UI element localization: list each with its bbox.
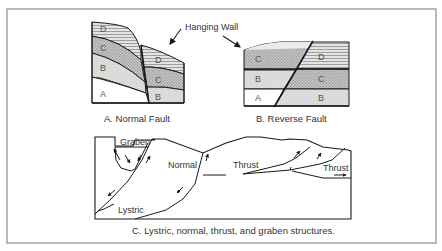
- label-layer-c-right-b: C: [318, 74, 325, 84]
- label-layer-d-right-b: D: [318, 52, 325, 62]
- label-layer-b-right-b: B: [318, 93, 324, 103]
- fault-diagram: D C B A D C B A. Normal Fault Hanging Wa…: [0, 0, 442, 251]
- label-layer-b-b: B: [255, 74, 261, 84]
- label-layer-b: B: [100, 63, 106, 73]
- label-lystric: Lystric: [118, 205, 144, 215]
- label-normal: Normal: [168, 160, 197, 170]
- hanging-wall-label: Hanging Wall: [185, 22, 238, 32]
- label-layer-a-b: A: [255, 93, 261, 103]
- layer-b-right-b: [275, 89, 349, 106]
- caption-normal-fault: A. Normal Fault: [104, 113, 170, 124]
- label-thrust-2: Thrust: [323, 163, 349, 173]
- label-layer-c: C: [100, 43, 107, 53]
- label-layer-a: A: [100, 89, 106, 99]
- label-thrust-1: Thrust: [233, 160, 259, 170]
- label-layer-b-right: B: [155, 92, 161, 102]
- label-layer-c-right: C: [155, 75, 162, 85]
- layer-b-right: [147, 87, 184, 103]
- label-layer-d: D: [100, 24, 107, 34]
- caption-structures: C. Lystric, normal, thrust, and graben s…: [132, 225, 335, 236]
- label-layer-d-right: D: [155, 55, 162, 65]
- label-layer-c-b: C: [255, 54, 262, 64]
- caption-reverse-fault: B. Reverse Fault: [256, 113, 327, 124]
- figure-frame: [7, 9, 436, 243]
- label-graben: Graben: [120, 137, 150, 147]
